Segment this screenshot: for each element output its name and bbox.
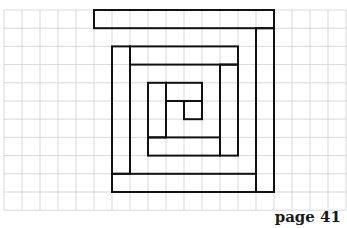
spiral-segment-inner-right-bar xyxy=(220,65,238,156)
grid-lines xyxy=(4,10,346,210)
spiral-segment-core-square xyxy=(184,101,202,119)
grid-paper-figure xyxy=(0,0,347,228)
spiral-segment-left-bar xyxy=(112,46,130,173)
spiral-segment-inner-left-bar xyxy=(148,83,166,138)
page-number-label: page 41 xyxy=(275,208,341,226)
spiral-segment-right-bar xyxy=(256,28,274,192)
